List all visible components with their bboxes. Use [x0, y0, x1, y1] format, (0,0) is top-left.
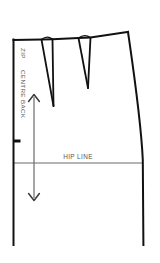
- zip-label: ZIP: [20, 48, 27, 59]
- centre-back-label: CENTRE BACK: [20, 70, 27, 119]
- pattern-diagram-canvas: ZIP CENTRE BACK HIP LINE HIP LINE: [0, 0, 160, 263]
- dart-1-right-leg: [53, 39, 54, 106]
- hip-line-label: HIP LINE: [63, 153, 93, 160]
- skirt-pattern-drawing: ZIP CENTRE BACK HIP LINE: [0, 0, 160, 263]
